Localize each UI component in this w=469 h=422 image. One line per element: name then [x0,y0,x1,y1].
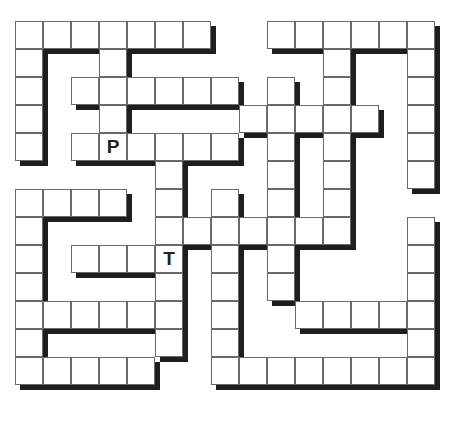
maze-cell[interactable] [323,189,351,217]
maze-cell[interactable] [267,105,295,133]
maze-cell[interactable] [99,21,127,49]
maze-cell[interactable] [71,77,99,105]
maze-cell[interactable] [267,21,295,49]
maze-cell[interactable] [155,189,183,217]
maze-cell[interactable]: P [99,133,127,161]
maze-cell[interactable] [211,329,239,357]
maze-cell[interactable] [211,133,239,161]
maze-cell[interactable] [323,161,351,189]
maze-cell[interactable] [407,357,435,385]
maze-cell[interactable] [379,301,407,329]
maze-cell[interactable] [295,217,323,245]
maze-cell[interactable] [407,105,435,133]
maze-cell[interactable] [43,21,71,49]
maze-cell[interactable] [155,161,183,189]
maze-cell[interactable] [295,301,323,329]
maze-cell[interactable] [15,21,43,49]
maze-cell[interactable] [43,301,71,329]
maze-cell[interactable] [183,133,211,161]
maze-cell[interactable] [155,217,183,245]
maze-cell[interactable] [407,245,435,273]
maze-cell[interactable] [407,217,435,245]
maze-cell[interactable] [407,77,435,105]
maze-cell[interactable] [15,273,43,301]
maze-cell[interactable] [211,301,239,329]
maze-cell[interactable] [323,49,351,77]
maze-cell[interactable] [15,357,43,385]
maze-cell[interactable] [15,301,43,329]
maze-cell[interactable] [351,21,379,49]
maze-cell[interactable] [43,357,71,385]
maze-cell[interactable] [15,133,43,161]
maze-cell[interactable] [127,77,155,105]
maze-cell[interactable] [323,21,351,49]
maze-cell[interactable] [211,77,239,105]
maze-cell[interactable] [43,189,71,217]
maze-cell[interactable] [99,49,127,77]
maze-cell[interactable] [99,77,127,105]
maze-cell[interactable] [351,357,379,385]
maze-cell[interactable] [71,21,99,49]
maze-cell[interactable] [267,133,295,161]
maze-cell[interactable] [71,133,99,161]
maze-cell[interactable] [295,105,323,133]
maze-cell[interactable] [407,329,435,357]
maze-cell[interactable] [323,301,351,329]
maze-cell[interactable] [183,77,211,105]
maze-cell[interactable] [155,77,183,105]
maze-cell[interactable] [99,105,127,133]
maze-cell[interactable] [127,357,155,385]
maze-cell[interactable] [211,217,239,245]
maze-cell[interactable] [295,21,323,49]
maze-cell[interactable] [267,273,295,301]
maze-cell[interactable] [183,217,211,245]
maze-cell[interactable] [155,21,183,49]
maze-cell[interactable] [267,161,295,189]
maze-cell[interactable] [407,301,435,329]
maze-cell[interactable] [127,133,155,161]
maze-cell[interactable] [15,49,43,77]
maze-cell[interactable] [15,189,43,217]
maze-cell[interactable] [407,273,435,301]
maze-cell[interactable] [323,105,351,133]
maze-cell[interactable] [71,301,99,329]
maze-cell[interactable] [239,105,267,133]
maze-cell[interactable] [239,217,267,245]
maze-cell[interactable] [407,21,435,49]
maze-cell[interactable] [267,357,295,385]
maze-cell[interactable] [99,245,127,273]
maze-cell[interactable] [323,217,351,245]
maze-cell[interactable] [127,245,155,273]
maze-cell[interactable] [211,245,239,273]
maze-cell[interactable] [407,49,435,77]
maze-cell[interactable] [295,357,323,385]
maze-cell[interactable] [155,133,183,161]
maze-cell[interactable] [267,217,295,245]
maze-cell[interactable] [71,189,99,217]
maze-cell[interactable] [15,217,43,245]
maze-cell[interactable] [407,161,435,189]
maze-cell[interactable] [155,273,183,301]
maze-cell[interactable] [211,273,239,301]
maze-cell[interactable] [127,21,155,49]
maze-cell[interactable] [351,301,379,329]
maze-cell[interactable] [379,21,407,49]
maze-cell[interactable] [99,301,127,329]
maze-cell[interactable] [15,245,43,273]
maze-cell[interactable] [211,189,239,217]
maze-cell[interactable] [379,357,407,385]
maze-cell[interactable] [71,357,99,385]
maze-cell[interactable] [127,301,155,329]
maze-cell[interactable] [323,357,351,385]
maze-cell[interactable] [323,133,351,161]
maze-cell[interactable] [323,77,351,105]
maze-cell[interactable] [267,77,295,105]
maze-cell[interactable] [407,133,435,161]
maze-cell[interactable] [183,21,211,49]
maze-cell[interactable] [267,245,295,273]
maze-cell[interactable] [15,329,43,357]
maze-cell[interactable] [15,105,43,133]
maze-cell[interactable] [211,357,239,385]
maze-cell[interactable] [99,357,127,385]
maze-cell[interactable] [351,105,379,133]
